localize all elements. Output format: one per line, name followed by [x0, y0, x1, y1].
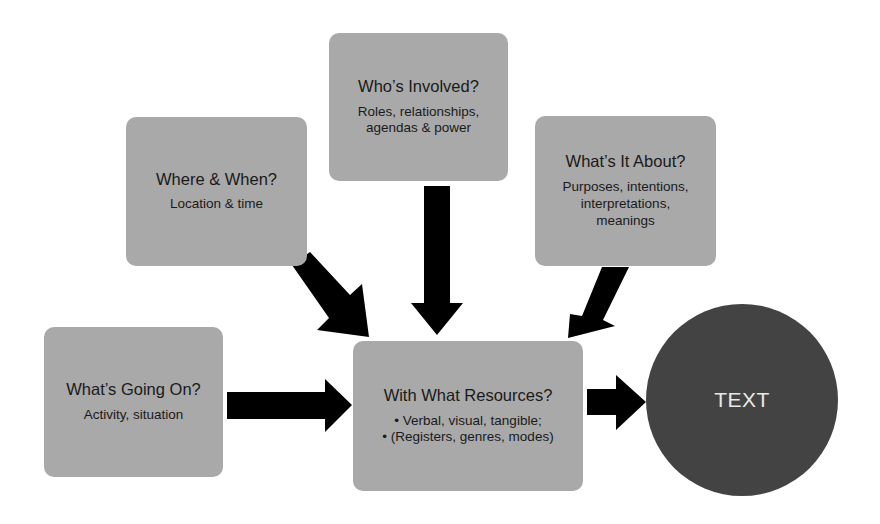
box-title: What’s Going On?	[66, 380, 201, 400]
box-whats-going-on: What’s Going On? Activity, situation	[44, 327, 223, 477]
box-where-when: Where & When? Location & time	[126, 117, 307, 266]
box-subtitle: Purposes, intentions, interpretations, m…	[562, 179, 688, 230]
arrow-diagonal-down-right-icon	[292, 252, 369, 337]
arrow-right-icon	[587, 375, 646, 430]
box-subtitle: Activity, situation	[84, 407, 184, 424]
box-subtitle: Roles, relationships, agendas & power	[358, 104, 480, 138]
box-title: Who’s Involved?	[358, 77, 479, 97]
box-with-what-resources: With What Resources? • Verbal, visual, t…	[353, 341, 583, 491]
circle-label: TEXT	[714, 388, 770, 412]
box-subtitle: Location & time	[170, 196, 263, 213]
box-title: With What Resources?	[384, 386, 553, 406]
arrow-down-icon	[411, 186, 463, 335]
text-circle: TEXT	[646, 304, 838, 496]
box-whats-it-about: What’s It About? Purposes, intentions, i…	[535, 116, 716, 266]
box-title: What’s It About?	[566, 152, 686, 172]
box-title: Where & When?	[156, 170, 277, 190]
arrow-diagonal-down-left-icon	[568, 267, 629, 338]
arrow-right-icon	[227, 379, 352, 432]
box-subtitle: • Verbal, visual, tangible; • (Registers…	[382, 413, 553, 447]
box-whos-involved: Who’s Involved? Roles, relationships, ag…	[329, 33, 508, 181]
